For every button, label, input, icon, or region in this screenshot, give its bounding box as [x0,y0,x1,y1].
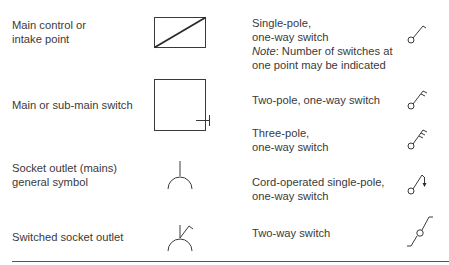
square-with-tick-icon [150,75,214,135]
note-prefix: Note [252,45,276,57]
note-rest: : Number of switches at [276,45,393,57]
label-line: Two-way switch [252,227,330,241]
label-main-switch: Main or sub-main switch [12,99,133,113]
label-socket-outlet: Socket outlet (mains) general symbol [12,162,117,189]
three-pole-switch-icon [405,125,435,155]
two-way-switch-icon [400,210,440,250]
label-line: intake point [12,33,86,47]
switched-socket-icon [162,218,202,254]
label-two-way: Two-way switch [252,227,330,241]
label-line: Main control or [12,19,86,33]
label-line: one-way switch [252,190,384,204]
note-line2: one point may be indicated [252,59,393,73]
label-line: general symbol [12,176,117,190]
cord-operated-switch-icon [405,170,435,200]
label-three-pole: Three-pole, one-way switch [252,127,328,154]
label-line: one-way switch [252,141,328,155]
socket-outlet-icon [162,158,198,192]
rectangle-diagonal-icon [150,14,210,52]
label-line: Socket outlet (mains) [12,162,117,176]
two-pole-switch-icon [405,85,435,115]
label-main-control: Main control or intake point [12,19,86,46]
label-line: Switched socket outlet [12,231,123,245]
note-text: Note: Number of switches at [252,45,393,59]
bottom-divider [12,261,449,262]
label-switched-socket: Switched socket outlet [12,231,123,245]
label-single-pole: Single-pole, one-way switch Note: Number… [252,17,393,72]
label-line: Main or sub-main switch [12,99,133,113]
label-line: Single-pole, [252,17,393,31]
label-line: one-way switch [252,31,393,45]
label-two-pole: Two-pole, one-way switch [252,94,380,108]
single-pole-switch-icon [405,20,435,50]
label-line: Three-pole, [252,127,328,141]
label-line: Two-pole, one-way switch [252,94,380,108]
label-line: Cord-operated single-pole, [252,176,384,190]
label-cord-operated: Cord-operated single-pole, one-way switc… [252,176,384,203]
